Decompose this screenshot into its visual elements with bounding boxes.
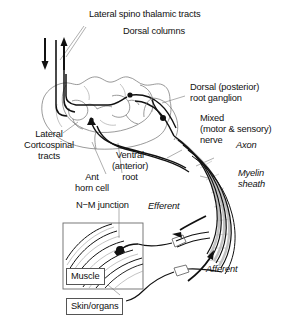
dorsal-root-ganglion [132, 95, 178, 140]
tract-arrows [42, 37, 68, 70]
label-ventral-root: Ventral (anterior) root [102, 150, 158, 183]
label-myelin-sheath: Myelin sheath [238, 168, 265, 190]
nerve-myelin-sheath [176, 138, 230, 266]
label-muscle: Muscle [66, 268, 105, 285]
label-dorsal-columns: Dorsal columns [123, 26, 185, 37]
label-skin-organs: Skin/organs [66, 298, 123, 315]
anatomy-diagram-canvas: Lateral spino thalamic tracts Dorsal col… [0, 0, 281, 326]
label-afferent: Afferent [206, 264, 237, 275]
label-lateral-corticospinal-tracts: Lateral Cortcospinal tracts [6, 129, 92, 162]
label-efferent: Efferent [148, 201, 179, 212]
label-lateral-spinothalamic-tracts: Lateral spino thalamic tracts [89, 9, 200, 20]
efferent-arrow [172, 216, 206, 238]
label-axon: Axon [236, 140, 257, 151]
label-dorsal-root-ganglion: Dorsal (posterior) root ganglion [190, 82, 259, 104]
anterior-horn-cell [87, 117, 96, 125]
label-nm-junction: N−M junction [76, 200, 129, 211]
